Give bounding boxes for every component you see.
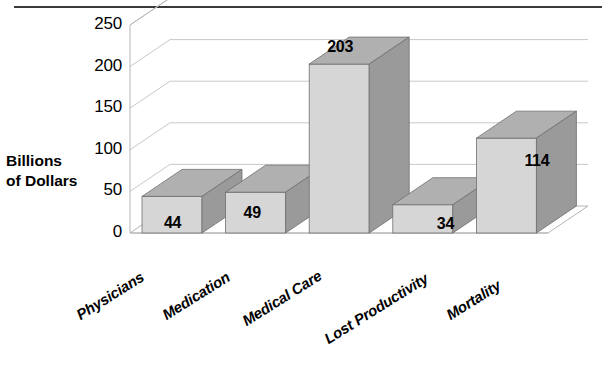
bar-value-label: 203	[327, 38, 353, 56]
y-axis-tick-label: 0	[66, 222, 122, 242]
y-axis-tick-label: 200	[66, 56, 122, 76]
bars-group	[142, 37, 576, 233]
y-axis-tick-label: 150	[66, 97, 122, 117]
bar	[476, 111, 576, 233]
y-axis-title-line2: of Dollars	[6, 172, 77, 189]
bar-value-label: 34	[437, 215, 454, 233]
y-axis-title-line1: Billions	[6, 152, 62, 169]
bar-front-face	[309, 64, 369, 233]
gridline	[130, 0, 588, 25]
bar-value-label: 44	[164, 214, 181, 232]
bar-value-label: 114	[524, 152, 549, 170]
y-axis-tick-label: 250	[66, 14, 122, 34]
y-axis-title: Billions of Dollars	[6, 151, 82, 191]
bar-value-label: 49	[244, 204, 261, 222]
